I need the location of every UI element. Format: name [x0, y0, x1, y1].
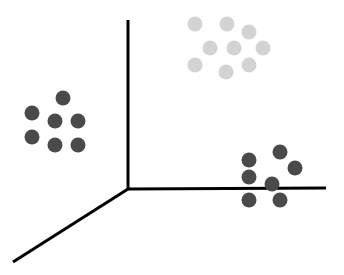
- data-point: [71, 114, 86, 129]
- data-point: [242, 58, 257, 73]
- data-point: [56, 91, 71, 106]
- data-point: [25, 130, 40, 145]
- data-point: [188, 17, 203, 32]
- data-point: [220, 17, 235, 32]
- data-point: [242, 170, 257, 185]
- data-point: [203, 41, 218, 56]
- data-point: [273, 145, 288, 160]
- scatter-chart: [0, 0, 344, 275]
- cluster-left: [25, 91, 86, 153]
- data-point: [256, 41, 271, 56]
- x-axis-horizontal: [128, 188, 326, 189]
- data-point: [242, 153, 257, 168]
- data-point: [25, 106, 40, 121]
- data-point: [288, 161, 303, 176]
- data-point: [242, 193, 257, 208]
- data-point: [48, 138, 63, 153]
- data-point: [227, 41, 242, 56]
- cluster-bottom-right: [242, 145, 303, 208]
- y-axis-diagonal: [13, 189, 128, 262]
- data-point: [71, 138, 86, 153]
- data-point: [265, 177, 280, 192]
- plot-area: [0, 0, 344, 275]
- data-point: [242, 25, 257, 40]
- data-points: [25, 17, 303, 208]
- data-point: [219, 65, 234, 80]
- cluster-top: [188, 17, 271, 80]
- data-point: [273, 193, 288, 208]
- data-point: [48, 114, 63, 129]
- data-point: [188, 58, 203, 73]
